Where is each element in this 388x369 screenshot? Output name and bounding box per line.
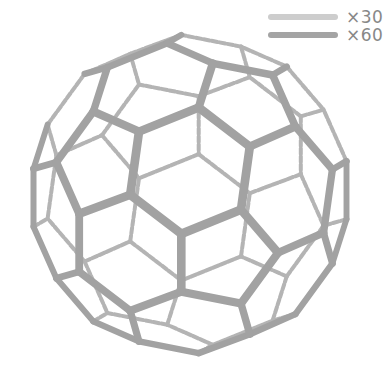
front-bond	[181, 210, 241, 234]
front-bond	[130, 195, 181, 234]
legend-label-x30: ×30	[346, 7, 382, 27]
front-bond	[56, 278, 93, 321]
front-bond	[295, 263, 332, 314]
front-bond	[332, 219, 346, 263]
front-bond	[250, 127, 296, 147]
back-bond	[181, 35, 241, 47]
front-bond	[79, 195, 130, 214]
front-bond	[181, 292, 241, 304]
front-bond	[56, 112, 93, 163]
front-bond	[241, 210, 278, 253]
legend-label-x60: ×60	[346, 25, 382, 45]
fullerene-diagram	[0, 0, 388, 369]
back-bond	[301, 110, 324, 117]
front-bond	[56, 162, 79, 214]
back-bond	[167, 325, 213, 345]
front-bond	[34, 227, 57, 278]
back-bond	[85, 241, 131, 261]
back-bond	[139, 85, 199, 97]
legend-item-x30: ×30	[262, 8, 382, 26]
front-bond	[213, 63, 273, 75]
front-bond	[241, 304, 250, 335]
back-bond	[130, 241, 181, 280]
legend-swatch-x60	[268, 32, 338, 38]
front-bond	[107, 43, 167, 67]
back-bond	[48, 74, 85, 125]
front-bond	[139, 108, 199, 132]
back-bond	[181, 256, 241, 280]
legend: ×30 ×60	[262, 8, 382, 44]
back-bond	[273, 276, 287, 320]
front-bond	[278, 233, 324, 253]
legend-swatch-x30	[268, 14, 338, 20]
back-bond	[324, 110, 347, 162]
back-bond	[250, 174, 301, 193]
front-bond	[199, 108, 250, 147]
back-bond	[139, 154, 199, 178]
front-bond	[167, 43, 213, 63]
legend-item-x60: ×60	[262, 26, 382, 44]
back-bond	[301, 174, 324, 226]
front-bond	[324, 233, 333, 264]
front-bond	[273, 75, 296, 127]
front-bond	[199, 63, 213, 107]
front-bond	[139, 341, 199, 353]
back-bond	[287, 67, 324, 110]
